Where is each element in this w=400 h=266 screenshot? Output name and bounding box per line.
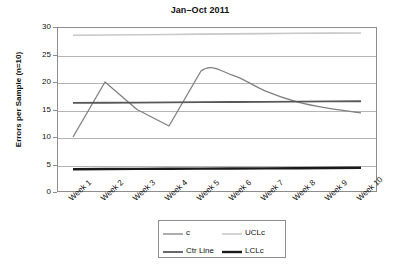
legend-label: UCLc <box>245 228 265 237</box>
legend-line-icon <box>163 223 183 241</box>
y-tick-label: 20 <box>27 77 51 86</box>
y-tick-mark <box>53 192 57 193</box>
y-tick-label: 0 <box>27 187 51 196</box>
legend-label: LCLc <box>245 246 264 255</box>
legend-line-icon <box>222 241 242 259</box>
legend-line-icon <box>163 241 183 259</box>
y-tick-label: 15 <box>27 105 51 114</box>
legend-item-uclc[interactable]: UCLc <box>222 223 281 241</box>
y-axis-title: Errors per Sample (n=10) <box>14 20 23 180</box>
legend-item-ctr-line[interactable]: Ctr Line <box>163 241 222 259</box>
legend-item-c[interactable]: c <box>163 223 222 241</box>
series-lines <box>57 27 377 192</box>
chart-legend: cUCLcCtr LineLCLc <box>158 220 286 258</box>
legend-label: c <box>186 228 190 237</box>
y-tick-label: 5 <box>27 160 51 169</box>
series-lclc <box>73 168 361 169</box>
chart-title: Jan–Oct 2011 <box>0 5 400 15</box>
legend-line-icon <box>222 223 242 241</box>
y-tick-label: 25 <box>27 50 51 59</box>
y-tick-label: 10 <box>27 132 51 141</box>
series-ctr-line <box>73 101 361 103</box>
series-uclc <box>73 33 361 35</box>
legend-item-lclc[interactable]: LCLc <box>222 241 281 259</box>
control-chart: Jan–Oct 2011 Errors per Sample (n=10) 05… <box>0 0 400 266</box>
legend-label: Ctr Line <box>186 246 214 255</box>
y-tick-label: 30 <box>27 22 51 31</box>
